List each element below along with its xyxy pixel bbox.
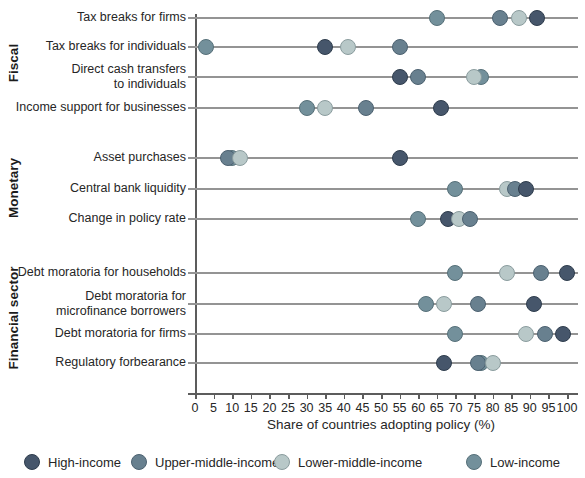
x-axis-line xyxy=(188,393,578,395)
dot-upper-middle-income xyxy=(358,100,374,116)
dot-upper-middle-income xyxy=(392,39,408,55)
dot-low-income xyxy=(429,10,445,26)
dot-upper-middle-income xyxy=(410,69,426,85)
dot-lower-middle-income xyxy=(317,100,333,116)
row-label: Debt moratoria for firms xyxy=(0,326,186,341)
row-label: Debt moratoria for microfinance borrower… xyxy=(0,289,186,319)
row-line xyxy=(188,76,578,78)
legend-item-lower-middle-income: Lower-middle-income xyxy=(274,453,422,471)
x-axis-tick xyxy=(214,393,216,399)
x-axis-tick-label: 100 xyxy=(552,401,582,415)
legend-swatch-lower-middle-income-icon xyxy=(274,454,290,470)
dot-low-income xyxy=(410,211,426,227)
x-axis-tick xyxy=(307,393,309,399)
x-axis-tick xyxy=(474,393,476,399)
dot-high-income xyxy=(555,326,571,342)
dot-lower-middle-income xyxy=(436,296,452,312)
row-line xyxy=(188,218,578,220)
dot-lower-middle-income xyxy=(485,355,501,371)
dot-high-income xyxy=(526,296,542,312)
dot-upper-middle-income xyxy=(470,355,486,371)
row-label: Tax breaks for firms xyxy=(0,10,186,25)
legend-item-high-income: High-income xyxy=(24,453,121,471)
dot-upper-middle-income xyxy=(470,296,486,312)
policy-adoption-dot-plot: FiscalTax breaks for firmsTax breaks for… xyxy=(0,0,585,478)
x-axis-tick xyxy=(437,393,439,399)
dot-low-income xyxy=(418,296,434,312)
legend-swatch-low-income-icon xyxy=(466,454,482,470)
row-label: Tax breaks for individuals xyxy=(0,39,186,54)
x-axis-tick xyxy=(455,393,457,399)
row-label: Regulatory forbearance xyxy=(0,355,186,370)
row-label: Central bank liquidity xyxy=(0,181,186,196)
dot-low-income xyxy=(198,39,214,55)
dot-lower-middle-income xyxy=(518,326,534,342)
x-axis-title: Share of countries adopting policy (%) xyxy=(195,417,567,432)
legend-item-upper-middle-income: Upper-middle-income xyxy=(131,453,279,471)
x-axis-tick xyxy=(269,393,271,399)
row-line xyxy=(188,46,578,48)
dot-high-income xyxy=(518,181,534,197)
row-line xyxy=(188,303,578,305)
dot-lower-middle-income xyxy=(466,69,482,85)
dot-low-income xyxy=(299,100,315,116)
dot-upper-middle-income xyxy=(537,326,553,342)
legend-label: Lower-middle-income xyxy=(298,455,422,470)
legend-swatch-high-income-icon xyxy=(24,454,40,470)
x-axis-tick xyxy=(548,393,550,399)
x-axis-tick xyxy=(567,393,569,399)
dot-high-income xyxy=(433,100,449,116)
dot-lower-middle-income xyxy=(232,150,248,166)
row-label: Direct cash transfers to individuals xyxy=(0,62,186,92)
x-axis-tick xyxy=(232,393,234,399)
x-axis-tick xyxy=(400,393,402,399)
x-axis-tick xyxy=(530,393,532,399)
dot-lower-middle-income xyxy=(340,39,356,55)
x-axis-tick xyxy=(362,393,364,399)
x-axis-tick xyxy=(325,393,327,399)
x-axis-tick xyxy=(418,393,420,399)
dot-high-income xyxy=(392,69,408,85)
x-axis-tick xyxy=(511,393,513,399)
dot-high-income xyxy=(392,150,408,166)
legend-label: Low-income xyxy=(490,455,560,470)
x-axis-tick xyxy=(195,393,197,399)
row-label: Income support for businesses xyxy=(0,100,186,115)
dot-upper-middle-income xyxy=(492,10,508,26)
row-label: Debt moratoria for households xyxy=(0,265,186,280)
legend-item-low-income: Low-income xyxy=(466,453,560,471)
dot-low-income xyxy=(447,181,463,197)
dot-lower-middle-income xyxy=(511,10,527,26)
row-line xyxy=(188,272,578,274)
dot-lower-middle-income xyxy=(499,265,515,281)
x-axis-tick xyxy=(344,393,346,399)
y-axis-line xyxy=(195,14,197,393)
dot-high-income xyxy=(559,265,575,281)
x-axis-tick xyxy=(251,393,253,399)
legend-swatch-upper-middle-income-icon xyxy=(131,454,147,470)
x-axis-tick xyxy=(493,393,495,399)
dot-low-income xyxy=(447,265,463,281)
x-axis-tick xyxy=(288,393,290,399)
x-axis-tick xyxy=(381,393,383,399)
dot-high-income xyxy=(436,355,452,371)
dot-high-income xyxy=(529,10,545,26)
dot-upper-middle-income xyxy=(462,211,478,227)
row-label: Asset purchases xyxy=(0,150,186,165)
row-line xyxy=(188,107,578,109)
dot-low-income xyxy=(447,326,463,342)
dot-high-income xyxy=(317,39,333,55)
legend-label: Upper-middle-income xyxy=(155,455,279,470)
row-label: Change in policy rate xyxy=(0,211,186,226)
legend-label: High-income xyxy=(48,455,121,470)
dot-upper-middle-income xyxy=(533,265,549,281)
row-line xyxy=(188,362,578,364)
